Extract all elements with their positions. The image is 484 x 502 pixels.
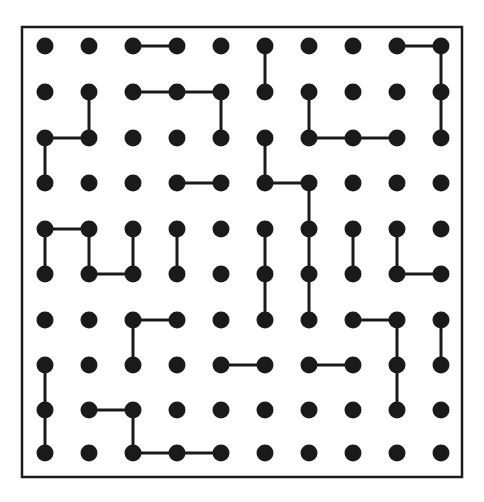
grid-dot-r9-c8[interactable] xyxy=(389,445,406,462)
grid-dot-r7-c0[interactable] xyxy=(37,357,54,374)
grid-dot-r2-c2[interactable] xyxy=(125,130,142,147)
grid-dot-r1-c5[interactable] xyxy=(257,84,274,101)
grid-dot-r5-c3[interactable] xyxy=(169,266,186,283)
grid-dot-r5-c6[interactable] xyxy=(301,266,318,283)
grid-dot-r8-c0[interactable] xyxy=(37,402,54,419)
grid-dot-r6-c3[interactable] xyxy=(169,312,186,329)
grid-dot-r8-c3[interactable] xyxy=(169,402,186,419)
grid-dot-r0-c7[interactable] xyxy=(345,38,362,55)
grid-dot-r1-c8[interactable] xyxy=(389,84,406,101)
grid-dot-r7-c6[interactable] xyxy=(301,357,318,374)
grid-dot-r3-c7[interactable] xyxy=(345,175,362,192)
grid-dot-r2-c3[interactable] xyxy=(169,130,186,147)
grid-dot-r9-c6[interactable] xyxy=(301,445,318,462)
grid-dot-r0-c6[interactable] xyxy=(301,38,318,55)
grid-dot-r1-c1[interactable] xyxy=(81,84,98,101)
grid-dot-r9-c4[interactable] xyxy=(213,445,230,462)
grid-dot-r1-c3[interactable] xyxy=(169,84,186,101)
grid-dot-r0-c2[interactable] xyxy=(125,38,142,55)
grid-dot-r2-c5[interactable] xyxy=(257,130,274,147)
grid-dot-r4-c4[interactable] xyxy=(213,221,230,238)
grid-dot-r0-c0[interactable] xyxy=(37,38,54,55)
grid-dot-r5-c1[interactable] xyxy=(81,266,98,283)
grid-dot-r3-c4[interactable] xyxy=(213,175,230,192)
grid-dot-r3-c3[interactable] xyxy=(169,175,186,192)
grid-dot-r9-c7[interactable] xyxy=(345,445,362,462)
grid-dot-r2-c0[interactable] xyxy=(37,130,54,147)
grid-dot-r9-c5[interactable] xyxy=(257,445,274,462)
grid-dot-r6-c7[interactable] xyxy=(345,312,362,329)
grid-dot-r7-c7[interactable] xyxy=(345,357,362,374)
grid-dot-r4-c3[interactable] xyxy=(169,221,186,238)
grid-dot-r2-c6[interactable] xyxy=(301,130,318,147)
grid-dot-r6-c6[interactable] xyxy=(301,312,318,329)
grid-dot-r7-c4[interactable] xyxy=(213,357,230,374)
grid-dot-r9-c9[interactable] xyxy=(433,445,450,462)
grid-dot-r9-c3[interactable] xyxy=(169,445,186,462)
grid-dot-r4-c2[interactable] xyxy=(125,221,142,238)
grid-dot-r3-c8[interactable] xyxy=(389,175,406,192)
grid-dot-r5-c0[interactable] xyxy=(37,266,54,283)
grid-dot-r8-c1[interactable] xyxy=(81,402,98,419)
grid-dot-r6-c4[interactable] xyxy=(213,312,230,329)
grid-dot-r7-c8[interactable] xyxy=(389,357,406,374)
grid-dot-r9-c2[interactable] xyxy=(125,445,142,462)
grid-dot-r5-c7[interactable] xyxy=(345,266,362,283)
grid-dot-r5-c9[interactable] xyxy=(433,266,450,283)
grid-dot-r2-c9[interactable] xyxy=(433,130,450,147)
grid-dot-r1-c4[interactable] xyxy=(213,84,230,101)
grid-dot-r8-c9[interactable] xyxy=(433,402,450,419)
grid-dot-r7-c2[interactable] xyxy=(125,357,142,374)
grid-dot-r3-c0[interactable] xyxy=(37,175,54,192)
grid-dot-r4-c5[interactable] xyxy=(257,221,274,238)
grid-dot-r7-c1[interactable] xyxy=(81,357,98,374)
grid-dot-r8-c6[interactable] xyxy=(301,402,318,419)
grid-dot-r2-c8[interactable] xyxy=(389,130,406,147)
grid-dot-r5-c2[interactable] xyxy=(125,266,142,283)
grid-dot-r0-c9[interactable] xyxy=(433,38,450,55)
grid-dot-r1-c0[interactable] xyxy=(37,84,54,101)
grid-dot-r6-c9[interactable] xyxy=(433,312,450,329)
grid-dot-r4-c7[interactable] xyxy=(345,221,362,238)
grid-dot-r8-c8[interactable] xyxy=(389,402,406,419)
grid-dot-r6-c1[interactable] xyxy=(81,312,98,329)
grid-dot-r5-c4[interactable] xyxy=(213,266,230,283)
grid-dot-r2-c7[interactable] xyxy=(345,130,362,147)
grid-dot-r4-c6[interactable] xyxy=(301,221,318,238)
grid-dot-r9-c1[interactable] xyxy=(81,445,98,462)
grid-dot-r5-c5[interactable] xyxy=(257,266,274,283)
grid-dot-r3-c1[interactable] xyxy=(81,175,98,192)
grid-dot-r7-c9[interactable] xyxy=(433,357,450,374)
grid-dot-r6-c2[interactable] xyxy=(125,312,142,329)
grid-dot-r3-c2[interactable] xyxy=(125,175,142,192)
grid-dot-r6-c0[interactable] xyxy=(37,312,54,329)
grid-dot-r4-c8[interactable] xyxy=(389,221,406,238)
grid-dot-r3-c9[interactable] xyxy=(433,175,450,192)
grid-dot-r8-c7[interactable] xyxy=(345,402,362,419)
grid-dot-r3-c6[interactable] xyxy=(301,175,318,192)
grid-dot-r1-c2[interactable] xyxy=(125,84,142,101)
grid-dot-r4-c0[interactable] xyxy=(37,221,54,238)
grid-dot-r0-c5[interactable] xyxy=(257,38,274,55)
grid-dot-r2-c1[interactable] xyxy=(81,130,98,147)
grid-dot-r8-c4[interactable] xyxy=(213,402,230,419)
grid-dot-r0-c3[interactable] xyxy=(169,38,186,55)
grid-dot-r2-c4[interactable] xyxy=(213,130,230,147)
grid-dot-r1-c9[interactable] xyxy=(433,84,450,101)
grid-dot-r6-c8[interactable] xyxy=(389,312,406,329)
grid-dot-r4-c1[interactable] xyxy=(81,221,98,238)
grid-dot-r9-c0[interactable] xyxy=(37,445,54,462)
grid-dot-r7-c3[interactable] xyxy=(169,357,186,374)
grid-dot-r0-c1[interactable] xyxy=(81,38,98,55)
grid-dot-r7-c5[interactable] xyxy=(257,357,274,374)
grid-dot-r5-c8[interactable] xyxy=(389,266,406,283)
grid-dot-r1-c6[interactable] xyxy=(301,84,318,101)
grid-dot-r8-c5[interactable] xyxy=(257,402,274,419)
dot-grid-puzzle[interactable] xyxy=(0,0,484,502)
grid-dot-r6-c5[interactable] xyxy=(257,312,274,329)
grid-dot-r4-c9[interactable] xyxy=(433,221,450,238)
grid-dot-r1-c7[interactable] xyxy=(345,84,362,101)
grid-dot-r8-c2[interactable] xyxy=(125,402,142,419)
grid-dot-r3-c5[interactable] xyxy=(257,175,274,192)
grid-dot-r0-c8[interactable] xyxy=(389,38,406,55)
